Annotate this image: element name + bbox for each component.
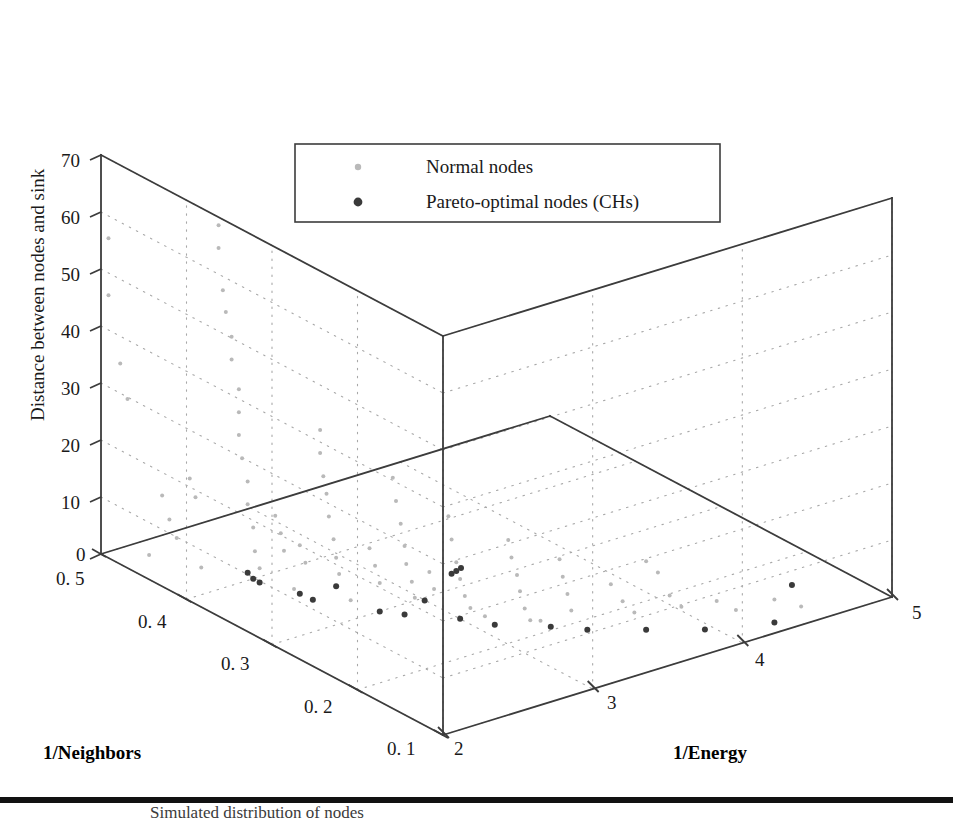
axis-tick-marks bbox=[90, 155, 898, 738]
x-tick-label-03: 0. 3 bbox=[221, 653, 250, 675]
z-tick-label-30: 30 bbox=[61, 378, 80, 400]
data-point bbox=[297, 591, 303, 597]
data-point bbox=[106, 293, 110, 297]
data-point bbox=[454, 560, 458, 564]
data-point bbox=[584, 627, 590, 633]
data-point bbox=[253, 549, 257, 553]
data-point bbox=[561, 575, 565, 579]
x-axis-title: 1/Neighbors bbox=[43, 742, 141, 764]
data-point bbox=[403, 544, 407, 548]
grid-lines bbox=[101, 155, 892, 735]
data-point bbox=[643, 627, 649, 633]
data-point bbox=[734, 608, 738, 612]
data-point bbox=[251, 525, 255, 529]
figure-caption-clip: Simulated distribution of nodes bbox=[0, 806, 953, 821]
data-point bbox=[298, 543, 302, 547]
data-point bbox=[422, 598, 428, 604]
data-point bbox=[373, 564, 377, 568]
data-point bbox=[468, 606, 472, 610]
data-points-pareto-nodes bbox=[245, 565, 795, 633]
y-axis-title: 1/Energy bbox=[673, 742, 747, 764]
data-point bbox=[772, 598, 776, 602]
figure-container: 70 60 50 40 30 20 10 0 Distance between … bbox=[0, 0, 953, 821]
data-point bbox=[399, 522, 403, 526]
data-point bbox=[237, 387, 241, 391]
data-point bbox=[457, 616, 463, 622]
data-point bbox=[246, 479, 250, 483]
data-point bbox=[147, 553, 151, 557]
data-point bbox=[450, 538, 454, 542]
data-point bbox=[632, 611, 636, 615]
data-point bbox=[118, 362, 122, 366]
data-point bbox=[679, 605, 683, 609]
data-point bbox=[199, 566, 203, 570]
data-point bbox=[193, 495, 197, 499]
data-point bbox=[509, 556, 513, 560]
data-point bbox=[515, 573, 519, 577]
data-point bbox=[644, 559, 648, 563]
data-point bbox=[609, 582, 613, 586]
z-axis-title: Distance between nodes and sink bbox=[27, 181, 49, 421]
data-point bbox=[292, 587, 296, 591]
data-point bbox=[394, 499, 398, 503]
page-divider-rule bbox=[0, 797, 953, 803]
z-tick-label-0: 0 bbox=[76, 544, 86, 566]
data-point bbox=[558, 557, 562, 561]
data-point bbox=[402, 611, 408, 617]
data-point bbox=[432, 587, 436, 591]
data-point bbox=[334, 556, 338, 560]
legend-marker-normal-nodes bbox=[355, 164, 361, 170]
data-point bbox=[246, 502, 250, 506]
data-point bbox=[569, 609, 573, 613]
data-point bbox=[106, 236, 110, 240]
data-point bbox=[224, 310, 228, 314]
data-point bbox=[548, 624, 554, 630]
data-point bbox=[506, 538, 510, 542]
figure-caption: Simulated distribution of nodes bbox=[150, 806, 364, 821]
data-point bbox=[327, 514, 331, 518]
data-point bbox=[188, 476, 192, 480]
data-point bbox=[230, 358, 234, 362]
data-point bbox=[126, 397, 130, 401]
data-point bbox=[175, 536, 179, 540]
y-tick-label-2: 2 bbox=[454, 738, 464, 760]
data-point bbox=[167, 518, 171, 522]
data-point bbox=[279, 531, 283, 535]
data-point bbox=[368, 546, 372, 550]
data-point bbox=[492, 622, 498, 628]
axes-frame bbox=[101, 155, 892, 735]
data-point bbox=[668, 593, 672, 597]
data-point bbox=[391, 476, 395, 480]
data-point bbox=[446, 514, 450, 518]
data-point bbox=[621, 599, 625, 603]
data-point bbox=[483, 614, 487, 618]
data-point bbox=[378, 581, 382, 585]
data-point bbox=[318, 428, 322, 432]
data-point bbox=[257, 580, 263, 586]
data-point bbox=[404, 562, 408, 566]
data-point bbox=[337, 572, 341, 576]
y-tick-label-4: 4 bbox=[755, 649, 765, 671]
data-point bbox=[715, 599, 719, 603]
y-tick-label-3: 3 bbox=[607, 692, 617, 714]
z-tick-label-70: 70 bbox=[61, 150, 80, 172]
data-points-normal-nodes bbox=[106, 223, 803, 622]
data-point bbox=[303, 561, 307, 565]
data-point bbox=[413, 596, 417, 600]
z-tick-label-20: 20 bbox=[61, 435, 80, 457]
data-point bbox=[237, 433, 241, 437]
z-tick-label-60: 60 bbox=[61, 207, 80, 229]
legend-label-pareto-nodes: Pareto-optimal nodes (CHs) bbox=[426, 191, 639, 213]
z-tick-label-40: 40 bbox=[61, 321, 80, 343]
data-point bbox=[250, 576, 256, 582]
data-point bbox=[518, 589, 522, 593]
data-point bbox=[771, 619, 777, 625]
x-tick-label-01: 0. 1 bbox=[387, 738, 416, 760]
data-point bbox=[799, 604, 803, 608]
data-point bbox=[333, 583, 339, 589]
data-point bbox=[325, 492, 329, 496]
x-tick-label-02: 0. 2 bbox=[304, 696, 333, 718]
data-point bbox=[349, 598, 353, 602]
x-tick-label-05: 0. 5 bbox=[56, 568, 85, 590]
data-point bbox=[221, 288, 225, 292]
